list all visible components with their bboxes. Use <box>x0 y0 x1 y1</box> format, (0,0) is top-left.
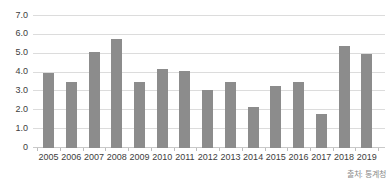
x-axis-tick <box>196 148 197 151</box>
bar-chart: 01.02.03.04.05.06.07.0 20052006200720082… <box>0 0 389 184</box>
x-axis-tick <box>60 148 61 151</box>
x-axis-tick <box>355 148 356 151</box>
y-tick-label: 1.0 <box>0 124 28 133</box>
gridline-4.0 <box>33 72 385 73</box>
source-note: 출처: 통계청 <box>347 170 386 180</box>
x-axis-tick <box>83 148 84 151</box>
x-axis-tick <box>219 148 220 151</box>
bar-2013 <box>225 82 236 148</box>
bar-2017 <box>316 114 327 148</box>
bar-2009 <box>134 82 145 148</box>
bar-2018 <box>339 46 350 148</box>
bar-2006 <box>66 82 77 148</box>
bar-2015 <box>270 86 281 148</box>
gridline-6.0 <box>33 34 385 35</box>
bar-2014 <box>248 107 259 148</box>
x-axis-tick <box>265 148 266 151</box>
x-axis-tick <box>287 148 288 151</box>
x-axis-tick <box>333 148 334 151</box>
y-tick-label: 2.0 <box>0 105 28 114</box>
y-tick-label: 6.0 <box>0 29 28 38</box>
bar-2010 <box>157 69 168 148</box>
x-axis-tick <box>242 148 243 151</box>
bar-2016 <box>293 82 304 148</box>
y-tick-label: 4.0 <box>0 67 28 76</box>
gridline-7.0 <box>33 15 385 16</box>
x-tick-label-2019: 2019 <box>352 152 382 163</box>
x-axis-tick <box>174 148 175 151</box>
bar-2005 <box>43 73 54 148</box>
bar-2019 <box>361 54 372 148</box>
x-axis-tick <box>37 148 38 151</box>
y-tick-label: 0 <box>0 143 28 152</box>
plot-area <box>33 16 385 148</box>
x-axis-tick <box>105 148 106 151</box>
y-tick-label: 7.0 <box>0 11 28 20</box>
x-axis-tick <box>310 148 311 151</box>
x-axis-tick <box>378 148 379 151</box>
x-axis-tick <box>151 148 152 151</box>
bar-2012 <box>202 90 213 148</box>
y-tick-label: 5.0 <box>0 48 28 57</box>
gridline-5.0 <box>33 53 385 54</box>
x-axis-tick <box>128 148 129 151</box>
bar-2007 <box>89 52 100 148</box>
y-tick-label: 3.0 <box>0 86 28 95</box>
bar-2008 <box>111 39 122 148</box>
bar-2011 <box>179 71 190 148</box>
